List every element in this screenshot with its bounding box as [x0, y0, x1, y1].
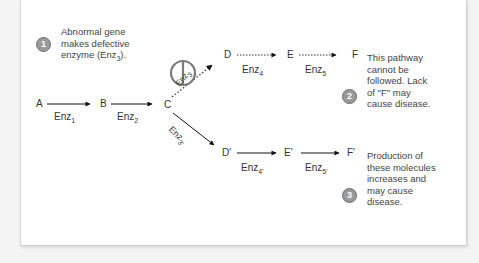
step-badge-1: 1	[36, 37, 51, 52]
molecule-a: A	[36, 99, 43, 109]
note-1: Abnormal gene makes defective enzyme (En…	[61, 26, 130, 65]
molecule-c: C	[164, 100, 171, 110]
molecule-f-prime: F'	[347, 148, 355, 158]
molecule-f: F	[352, 50, 358, 60]
note-3-line: disease.	[367, 196, 436, 208]
molecule-e-prime: E'	[284, 148, 293, 158]
note-3-line: these molecules	[367, 162, 436, 174]
enzyme-4-prime: Enz4'	[241, 163, 263, 175]
step-badge-2: 2	[342, 89, 357, 104]
note-2-line: This pathway	[367, 52, 430, 64]
molecule-e: E	[287, 50, 294, 60]
note-2-line: of "F" may	[367, 87, 430, 99]
step-badge-3: 3	[342, 188, 357, 203]
enzyme-4: Enz4	[242, 65, 263, 77]
note-3-line: increases and	[367, 173, 436, 185]
enzyme-2: Enz2	[117, 112, 138, 124]
note-2-line: cannot be	[367, 64, 430, 76]
enzyme-5: Enz5	[305, 65, 326, 77]
note-2-line: cause disease.	[367, 98, 430, 110]
note-3-line: may cause	[367, 185, 436, 197]
note-2-line: followed. Lack	[367, 75, 430, 87]
note-1-line: Abnormal gene	[61, 26, 130, 38]
molecule-d-prime: D'	[222, 148, 231, 158]
molecule-d: D	[224, 50, 231, 60]
enzyme-1: Enz1	[54, 112, 75, 124]
note-3: Production of these molecules increases …	[367, 150, 436, 208]
note-1-line: makes defective	[61, 38, 130, 50]
note-2: This pathway cannot be followed. Lack of…	[367, 52, 430, 110]
note-1-line: enzyme (Enz3).	[61, 49, 130, 65]
note-3-line: Production of	[367, 150, 436, 162]
molecule-b: B	[100, 99, 107, 109]
enzyme-5-prime: Enz5'	[305, 163, 327, 175]
